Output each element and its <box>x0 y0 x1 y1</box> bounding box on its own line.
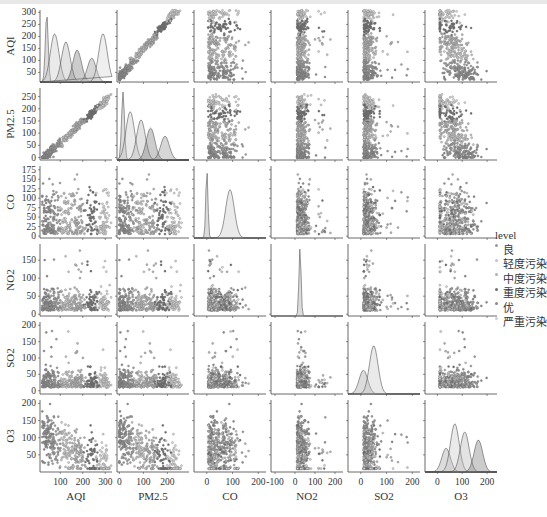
panel-PM2.5-vs-AQI: 050100150200250PM2.5 <box>4 88 112 163</box>
y-tick-label: 0 <box>31 386 36 396</box>
x-tick-label: 200 <box>405 477 420 487</box>
x-tick-label: 200 <box>328 477 343 487</box>
panel-CO-vs-O3 <box>423 166 497 240</box>
panel-NO2-vs-AQI: 050100150NO2 <box>4 244 112 319</box>
panel-SO2-vs-O3 <box>423 322 497 396</box>
y-tick-label: 25 <box>27 222 37 232</box>
y-tick-label: 200 <box>22 31 37 41</box>
y-axis-label: AQI <box>4 36 16 56</box>
panel-O3-vs-AQI: 50100150200O3100200300AQI <box>4 398 113 502</box>
panel-AQI-vs-CO <box>192 9 266 84</box>
y-tick-label: 0 <box>31 309 36 319</box>
y-tick-label: 0 <box>31 231 36 241</box>
panel-NO2-vs-CO <box>192 244 266 318</box>
legend-title: level <box>495 228 547 243</box>
panel-NO2-vs-PM2.5 <box>115 244 189 318</box>
legend-item: 严重污染 <box>495 315 547 330</box>
x-tick-label: 100 <box>225 477 240 487</box>
panel-O3-vs-O3: 0100200O3 <box>423 400 497 502</box>
legend-marker-icon <box>495 317 498 320</box>
y-tick-label: 50 <box>27 140 37 150</box>
y-tick-label: 150 <box>22 174 37 184</box>
x-tick-label: 100 <box>136 477 151 487</box>
panel-AQI-vs-NO2 <box>269 9 343 84</box>
legend: level 良 轻度污染 中度污染 重度污染 优 严重污染 <box>495 228 547 330</box>
x-tick-label: 100 <box>308 477 323 487</box>
panel-CO-vs-NO2 <box>269 166 343 240</box>
x-axis-label: CO <box>222 490 237 502</box>
x-tick-label: 200 <box>480 477 495 487</box>
panel-O3-vs-CO: 0100200CO <box>192 400 266 502</box>
x-tick-label: 0 <box>204 477 209 487</box>
x-axis-label: AQI <box>66 490 86 502</box>
panel-CO-vs-PM2.5 <box>115 166 189 240</box>
y-axis-label: NO2 <box>4 269 16 290</box>
y-axis-label: CO <box>4 194 16 209</box>
y-tick-label: 150 <box>22 43 37 53</box>
panel-SO2-vs-CO <box>192 322 266 396</box>
x-tick-label: 100 <box>53 477 68 487</box>
x-axis-label: PM2.5 <box>138 490 168 502</box>
x-tick-label: 200 <box>251 477 266 487</box>
panel-O3-vs-SO2: 0100200SO2 <box>346 400 420 502</box>
y-tick-label: 150 <box>22 416 37 426</box>
y-axis-label: O3 <box>4 429 16 443</box>
y-tick-label: 100 <box>22 128 37 138</box>
x-tick-label: 300 <box>98 477 113 487</box>
x-tick-label: 0 <box>117 477 122 487</box>
y-tick-label: 50 <box>27 67 37 77</box>
legend-item: 优 <box>495 301 547 316</box>
panel-O3-vs-PM2.5: 0100200PM2.5 <box>115 400 189 502</box>
x-tick-label: 0 <box>293 477 298 487</box>
y-tick-label: 50 <box>27 450 37 460</box>
x-tick-label: 100 <box>379 477 394 487</box>
x-tick-label: 100 <box>455 477 470 487</box>
panel-PM2.5-vs-SO2 <box>346 88 420 162</box>
x-axis-label: SO2 <box>374 490 394 502</box>
y-tick-label: 125 <box>22 184 37 194</box>
panel-SO2-vs-PM2.5 <box>115 322 189 396</box>
panel-PM2.5-vs-NO2 <box>269 88 343 162</box>
panel-SO2-vs-AQI: 050100150200SO2 <box>4 320 112 396</box>
y-tick-label: 100 <box>22 433 37 443</box>
legend-marker-icon <box>495 244 498 247</box>
y-tick-label: 250 <box>22 92 37 102</box>
pairplot-grid: 50100150200250300AQI050100150200250PM2.5… <box>0 0 547 517</box>
y-tick-label: 175 <box>22 165 37 175</box>
panel-AQI-vs-AQI: 50100150200250300AQI <box>4 7 112 84</box>
legend-marker-icon <box>495 288 498 291</box>
panel-NO2-vs-SO2 <box>346 244 420 318</box>
legend-marker-icon <box>495 302 498 305</box>
panel-AQI-vs-O3 <box>423 9 497 84</box>
y-tick-label: 100 <box>22 353 37 363</box>
x-tick-label: -100 <box>266 477 284 487</box>
panel-PM2.5-vs-PM2.5 <box>115 88 189 162</box>
x-tick-label: 200 <box>160 477 175 487</box>
legend-item: 良 <box>495 243 547 258</box>
panel-SO2-vs-SO2 <box>346 322 420 396</box>
y-tick-label: 0 <box>31 153 36 163</box>
y-tick-label: 250 <box>22 19 37 29</box>
y-tick-label: 100 <box>22 55 37 65</box>
panel-NO2-vs-O3 <box>423 244 497 318</box>
y-tick-label: 50 <box>27 291 37 301</box>
y-tick-label: 75 <box>27 203 37 213</box>
y-tick-label: 50 <box>27 369 37 379</box>
legend-item: 重度污染 <box>495 286 547 301</box>
panel-O3-vs-NO2: -1000100200NO2 <box>266 400 343 502</box>
legend-item: 轻度污染 <box>495 257 547 272</box>
y-tick-label: 150 <box>22 337 37 347</box>
y-tick-label: 200 <box>22 398 37 408</box>
panel-AQI-vs-SO2 <box>346 9 420 84</box>
y-axis-label: SO2 <box>4 348 16 368</box>
y-tick-label: 50 <box>27 212 37 222</box>
x-tick-label: 200 <box>76 477 91 487</box>
legend-marker-icon <box>495 259 498 262</box>
x-tick-label: 0 <box>435 477 440 487</box>
y-tick-label: 100 <box>22 273 37 283</box>
panel-NO2-vs-NO2 <box>269 244 343 318</box>
x-axis-label: NO2 <box>296 490 317 502</box>
panel-CO-vs-SO2 <box>346 166 420 240</box>
panel-PM2.5-vs-CO <box>192 88 266 162</box>
y-tick-label: 200 <box>22 320 37 330</box>
